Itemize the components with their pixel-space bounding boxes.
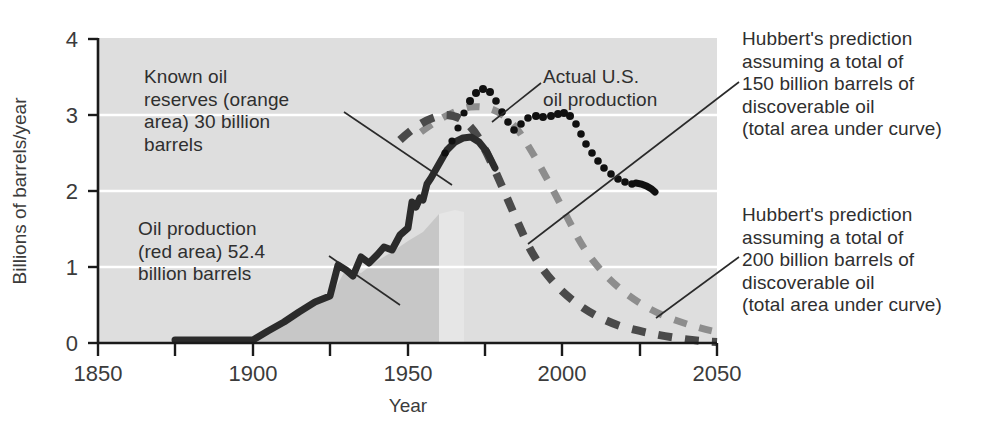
y-tick-label-1: 1 bbox=[66, 255, 78, 280]
x-tick-label-2050: 2050 bbox=[693, 361, 742, 386]
figure-container: 0 1 2 3 4 1850 1900 1950 2000 2050 Year … bbox=[0, 0, 997, 423]
y-tick-label-4: 4 bbox=[66, 27, 78, 52]
y-tick-label-0: 0 bbox=[66, 331, 78, 356]
y-tick-label-2: 2 bbox=[66, 179, 78, 204]
x-axis-ticks bbox=[98, 343, 717, 356]
annotation-hubbert-prediction-150: Hubbert's prediction assuming a total of… bbox=[742, 28, 992, 141]
x-tick-label-1950: 1950 bbox=[384, 361, 433, 386]
x-tick-label-1850: 1850 bbox=[74, 361, 123, 386]
x-tick-label-1900: 1900 bbox=[229, 361, 278, 386]
annotation-actual-us-oil-production: Actual U.S. oil production bbox=[543, 66, 713, 111]
annotation-hubbert-prediction-200: Hubbert's prediction assuming a total of… bbox=[742, 204, 992, 317]
y-axis-ticks bbox=[88, 39, 98, 343]
x-axis-title: Year bbox=[389, 395, 428, 416]
reserves-area-shading bbox=[439, 210, 464, 343]
annotation-oil-production: Oil production (red area) 52.4 billion b… bbox=[138, 218, 338, 286]
y-tick-label-3: 3 bbox=[66, 103, 78, 128]
x-tick-label-2000: 2000 bbox=[538, 361, 587, 386]
annotation-known-oil-reserves: Known oil reserves (orange area) 30 bill… bbox=[144, 66, 354, 156]
y-axis-title: Billions of barrels/year bbox=[9, 97, 30, 285]
